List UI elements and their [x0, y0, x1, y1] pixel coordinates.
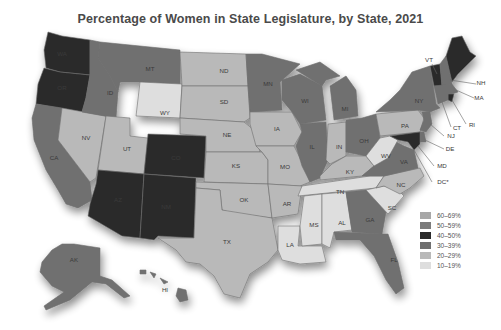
label-SC: SC	[388, 204, 397, 211]
label-ID: ID	[107, 89, 114, 96]
label-MA: MA	[474, 94, 484, 101]
legend-swatch	[420, 262, 431, 269]
label-TN: TN	[336, 188, 344, 195]
label-NC: NC	[397, 181, 406, 188]
label-AR: AR	[283, 200, 292, 207]
label-AZ: AZ	[114, 196, 122, 203]
label-RI: RI	[469, 121, 475, 128]
legend-swatch	[420, 212, 431, 219]
legend-item: 10–19%	[420, 260, 461, 270]
state-DE	[420, 132, 426, 142]
label-VA: VA	[400, 158, 409, 165]
legend-item: 40–50%	[420, 230, 461, 240]
label-HI: HI	[162, 286, 168, 293]
label-MN: MN	[263, 80, 273, 87]
legend-item: 30–39%	[420, 240, 461, 250]
legend-label: 50–59%	[437, 222, 461, 229]
state-AK	[40, 244, 130, 310]
state-ND	[180, 52, 248, 86]
state-ME	[446, 36, 476, 82]
legend-label: 10–19%	[437, 262, 461, 269]
label-NY: NY	[415, 97, 424, 104]
label-CO: CO	[171, 154, 180, 161]
label-AK: AK	[70, 256, 79, 263]
legend-label: 40–50%	[437, 232, 461, 239]
label-IA: IA	[274, 125, 281, 132]
label-PA: PA	[401, 122, 410, 129]
label-MS: MS	[309, 221, 318, 228]
legend-label: 20–29%	[437, 252, 461, 259]
label-NM: NM	[161, 203, 171, 210]
state-MS	[300, 194, 322, 246]
state-SD	[180, 86, 250, 122]
label-MT: MT	[146, 65, 155, 72]
label-SD: SD	[220, 98, 229, 105]
label-DE: DE	[446, 145, 455, 152]
legend-item: 50–59%	[420, 220, 461, 230]
label-OH: OH	[359, 137, 368, 144]
label-UT: UT	[123, 145, 131, 152]
label-GA: GA	[366, 216, 376, 223]
label-NE: NE	[223, 131, 232, 138]
legend-swatch	[420, 222, 431, 229]
legend: 60–69% 50–59% 40–50% 30–39% 20–29% 10–19…	[420, 210, 461, 270]
legend-swatch	[420, 232, 431, 239]
legend-label: 30–39%	[437, 242, 461, 249]
state-FL	[334, 232, 404, 294]
label-TX: TX	[223, 238, 231, 245]
label-IL: IL	[309, 143, 315, 150]
state-MA	[434, 84, 458, 94]
label-OR: OR	[57, 84, 67, 91]
label-WV: WV	[381, 152, 392, 159]
label-OK: OK	[240, 196, 250, 203]
legend-swatch	[420, 242, 431, 249]
label-WA: WA	[57, 50, 68, 57]
label-NJ: NJ	[447, 132, 455, 139]
label-ND: ND	[220, 67, 229, 74]
label-WI: WI	[301, 97, 309, 104]
label-MO: MO	[280, 163, 290, 170]
label-CT: CT	[453, 124, 461, 131]
label-KY: KY	[346, 168, 354, 175]
state-NY	[376, 66, 440, 112]
state-AZ	[88, 170, 144, 238]
label-CA: CA	[50, 154, 59, 161]
label-AL: AL	[338, 219, 346, 226]
state-RI	[448, 94, 454, 102]
label-NH: NH	[477, 79, 486, 86]
legend-label: 60–69%	[437, 212, 461, 219]
label-VT: VT	[425, 56, 433, 63]
legend-item: 60–69%	[420, 210, 461, 220]
state-WA	[44, 32, 90, 75]
us-choropleth-map: WA OR CA NV ID MT WY UT CO AZ NM ND SD N…	[0, 0, 501, 330]
label-LA: LA	[286, 241, 294, 248]
label-IN: IN	[336, 143, 342, 150]
label-MD: MD	[437, 162, 447, 169]
state-PA	[376, 110, 424, 136]
state-WY	[136, 82, 182, 118]
legend-item: 20–29%	[420, 250, 461, 260]
legend-swatch	[420, 252, 431, 259]
label-KS: KS	[232, 162, 240, 169]
label-DC: DC*	[437, 178, 449, 185]
label-FL: FL	[390, 256, 398, 263]
label-WY: WY	[160, 109, 170, 116]
label-MI: MI	[342, 105, 349, 112]
label-NV: NV	[82, 134, 91, 141]
